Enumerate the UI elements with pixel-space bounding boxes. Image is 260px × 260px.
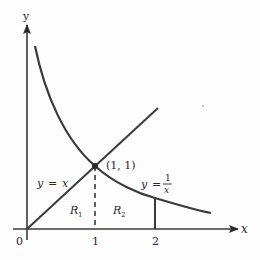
point-label: (1, 1) [106,159,136,172]
line-y-equals-x [27,108,158,229]
line-label-lhs: y [36,177,44,190]
curve-label-lhs: y [140,178,148,191]
region-r2-sub: 2 [121,211,125,219]
x-tick-1: 1 [92,235,99,248]
line-label-eq: = [48,177,57,190]
intersection-point [92,163,98,169]
speck [202,105,204,107]
y-axis-label: y [22,10,30,23]
line-label-rhs: x [62,177,69,190]
area-diagram: y x 0 1 2 (1, 1) y = x y = 1 x R 1 R 2 [0,0,260,260]
curve-label-den: x [164,185,169,195]
region-r1-letter: R [69,204,78,217]
diagram-canvas: y x 0 1 2 (1, 1) y = x y = 1 x R 1 R 2 [0,0,260,260]
x-tick-2: 2 [152,235,159,248]
curve-label-eq: = [152,178,161,191]
origin-label: 0 [16,235,23,248]
region-r2-letter: R [112,204,121,217]
curve-label-num: 1 [165,173,171,183]
region-r1-sub: 1 [78,211,82,219]
x-axis-label: x [241,222,248,236]
